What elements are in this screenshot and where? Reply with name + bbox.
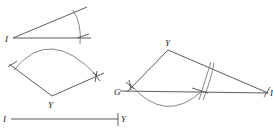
angle-figure: I <box>4 7 91 44</box>
triangle-side-gi <box>120 91 268 93</box>
angle-tick <box>77 34 89 38</box>
triangle-arc-lower <box>130 84 202 106</box>
segment-end-label: Y <box>121 114 127 124</box>
arc-angle-vertex-label: Y <box>48 100 54 110</box>
angle-ray-upper <box>13 7 87 38</box>
triangle-figure: Y G I <box>114 38 273 106</box>
triangle-top-label: Y <box>165 38 171 48</box>
triangle-side-yi <box>168 50 268 93</box>
triangle-right-label: I <box>269 88 273 98</box>
arc-angle-figure: Y <box>8 49 104 110</box>
arc-angle-arc <box>14 49 97 76</box>
angle-vertex-label: I <box>4 34 9 44</box>
segment-start-label: I <box>2 114 7 124</box>
triangle-left-label: G <box>114 87 121 97</box>
segment-figure: I Y <box>2 113 127 126</box>
triangle-side-gy <box>127 50 168 92</box>
angle-arc <box>73 10 80 44</box>
construction-diagram: I Y I Y Y G I <box>0 0 273 130</box>
arc-angle-ray-left <box>9 64 52 96</box>
